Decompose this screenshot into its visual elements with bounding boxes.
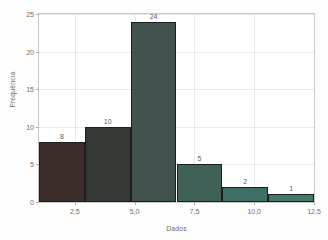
histogram-bar (85, 127, 131, 202)
x-tick-mark (254, 202, 255, 205)
bar-value-label: 8 (60, 133, 64, 140)
histogram-bar (39, 142, 85, 202)
histogram-bar (222, 187, 268, 202)
histogram-bar (131, 22, 177, 202)
x-tick-mark (135, 202, 136, 205)
y-gridline (39, 127, 314, 128)
plot-area: 05101520252,55,07,510,012,581024521 (38, 13, 315, 203)
y-tick-label: 20 (26, 48, 34, 55)
x-tick-mark (194, 202, 195, 205)
x-axis-title: Dados (38, 225, 315, 232)
y-tick-label: 5 (30, 161, 34, 168)
plot-inner (39, 14, 314, 202)
x-tick-label: 7,5 (190, 208, 200, 215)
bar-value-label: 10 (104, 118, 112, 125)
bar-value-label: 1 (289, 185, 293, 192)
y-gridline (39, 89, 314, 90)
y-gridline (39, 52, 314, 53)
y-gridline (39, 14, 314, 15)
y-tick-mark (36, 127, 39, 128)
bar-value-label: 24 (150, 13, 158, 20)
x-gridline (254, 14, 255, 202)
y-tick-mark (36, 52, 39, 53)
histogram-bar (268, 194, 314, 202)
x-tick-label: 10,0 (247, 208, 261, 215)
histogram-figure: Frequência 05101520252,55,07,510,012,581… (0, 0, 328, 240)
x-tick-mark (75, 202, 76, 205)
y-tick-label: 0 (30, 199, 34, 206)
y-tick-mark (36, 202, 39, 203)
y-tick-mark (36, 89, 39, 90)
bar-value-label: 2 (243, 178, 247, 185)
x-tick-label: 2,5 (70, 208, 80, 215)
y-tick-label: 10 (26, 123, 34, 130)
x-tick-label: 12,5 (307, 208, 321, 215)
y-tick-mark (36, 14, 39, 15)
y-tick-label: 15 (26, 86, 34, 93)
y-tick-mark (36, 164, 39, 165)
y-tick-label: 25 (26, 11, 34, 18)
x-tick-mark (314, 202, 315, 205)
x-tick-label: 5,0 (130, 208, 140, 215)
bar-value-label: 5 (197, 155, 201, 162)
histogram-bar (177, 164, 223, 202)
y-axis-title: Frequência (9, 55, 16, 125)
